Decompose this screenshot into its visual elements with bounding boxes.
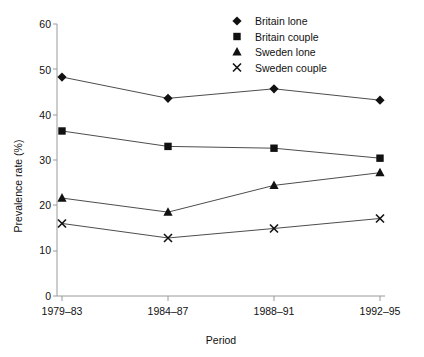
x-axis-title: Period [206,334,237,346]
y-tick-label: 40 [39,109,51,121]
series-line [62,131,380,158]
diamond-marker [232,16,241,25]
cross-marker [233,64,241,72]
diamond-marker [57,72,66,81]
series-sweden-lone [57,168,384,216]
square-marker [233,33,240,40]
y-tick-label: 10 [39,244,51,256]
y-tick-marks [53,24,57,296]
y-tick-label: 60 [39,18,51,30]
legend-label: Sweden lone [255,46,316,58]
x-tick-label: 1984–87 [148,305,189,317]
triangle-marker [57,193,66,202]
diamond-marker [163,94,172,103]
square-marker [270,145,277,152]
x-tick-marks [62,296,380,301]
x-tick-label: 1992–95 [360,305,401,317]
square-marker [58,127,65,134]
series-sweden-couple [58,214,384,241]
triangle-marker [375,168,384,177]
series-britain-couple [58,127,383,162]
y-tick-label: 20 [39,199,51,211]
diamond-marker [375,96,384,105]
x-tick-label: 1988–91 [254,305,295,317]
y-axis-title: Prevalence rate (%) [12,140,24,233]
chart-canvas: Prevalence rate (%) 60 50 40 30 20 10 0 [0,0,424,357]
series-britain-lone [57,72,384,104]
diamond-marker [269,84,278,93]
legend-label: Britain couple [255,31,319,43]
series-layer [57,72,384,242]
y-tick-labels: 60 50 40 30 20 10 0 [39,18,51,302]
square-marker [164,143,171,150]
x-tick-label: 1979–83 [42,305,83,317]
legend-label: Sweden couple [255,62,327,74]
y-tick-label: 30 [39,154,51,166]
line-chart: Prevalence rate (%) 60 50 40 30 20 10 0 [0,0,424,357]
series-line [62,173,380,212]
chart-legend: Britain loneBritain coupleSweden loneSwe… [232,15,327,74]
series-line [62,218,380,237]
series-line [62,77,380,100]
y-tick-label: 50 [39,64,51,76]
triangle-marker [232,47,241,56]
x-tick-labels: 1979–83 1984–87 1988–91 1992–95 [42,305,401,317]
legend-label: Britain lone [255,15,308,27]
y-tick-label: 0 [45,290,51,302]
square-marker [376,154,383,161]
